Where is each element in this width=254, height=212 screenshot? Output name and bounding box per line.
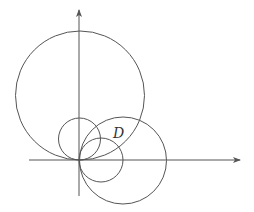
large-upper-circle — [16, 31, 145, 160]
diagram-canvas: D — [0, 0, 254, 212]
diagram-svg — [0, 0, 254, 212]
circles-group — [16, 31, 167, 204]
region-D-label: D — [113, 126, 124, 140]
